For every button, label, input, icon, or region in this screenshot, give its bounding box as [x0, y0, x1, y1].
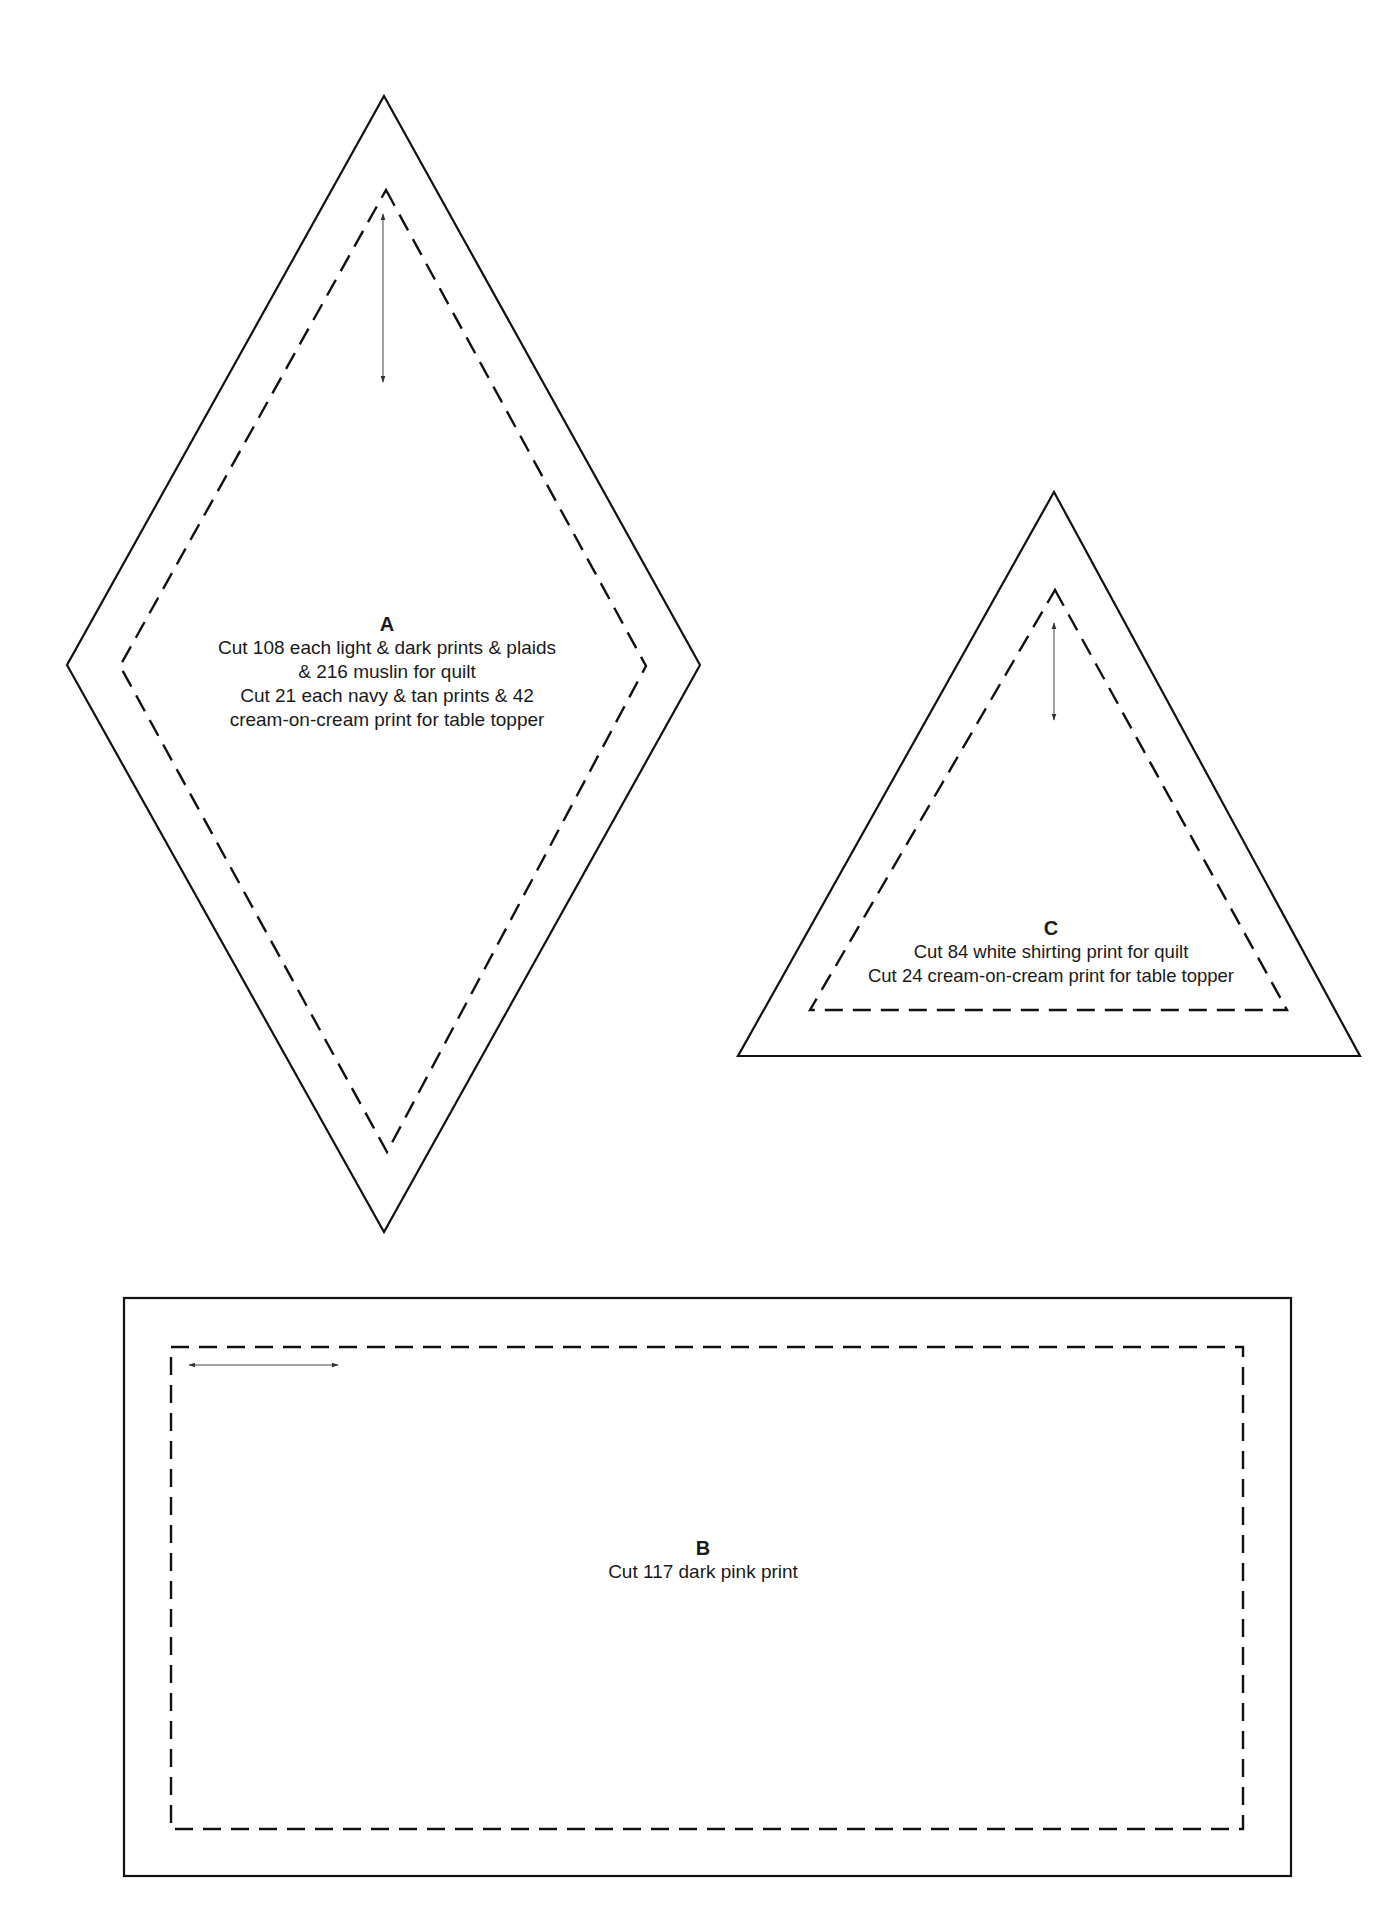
- piece-c-letter: C: [868, 916, 1234, 940]
- piece-a-instruction-2: & 216 muslin for quilt: [218, 660, 556, 684]
- piece-b-label: B Cut 117 dark pink print: [608, 1536, 798, 1584]
- piece-b-cut-line: [124, 1298, 1291, 1876]
- piece-b-instruction-1: Cut 117 dark pink print: [608, 1560, 798, 1584]
- piece-a-letter: A: [218, 612, 556, 636]
- piece-b-template: [124, 1298, 1291, 1876]
- piece-b-letter: B: [608, 1536, 798, 1560]
- piece-c-instruction-1: Cut 84 white shirting print for quilt: [868, 940, 1234, 964]
- piece-a-instruction-4: cream-on-cream print for table topper: [218, 708, 556, 732]
- piece-a-label: A Cut 108 each light & dark prints & pla…: [218, 612, 556, 732]
- piece-c-instruction-2: Cut 24 cream-on-cream print for table to…: [868, 964, 1234, 988]
- piece-c-label: C Cut 84 white shirting print for quilt …: [868, 916, 1234, 988]
- piece-a-instruction-1: Cut 108 each light & dark prints & plaid…: [218, 636, 556, 660]
- piece-b-seam-line: [171, 1347, 1243, 1829]
- piece-a-instruction-3: Cut 21 each navy & tan prints & 42: [218, 684, 556, 708]
